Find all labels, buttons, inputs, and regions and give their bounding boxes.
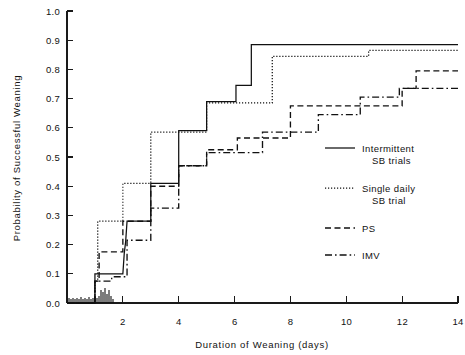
survival-curve-figure: Probability of Successful Weaning Durati…	[0, 0, 465, 355]
y-axis-title: Probability of Successful Weaning	[11, 75, 22, 242]
y-ticks: 1.0 0.9 0.8 0.7 0.6 0.5 0.4 0.3 0.2 0.1 …	[46, 6, 73, 309]
y-tick-label-0.9: 0.9	[46, 35, 60, 46]
y-tick-label-0.8: 0.8	[46, 64, 60, 75]
x-tick-label-12: 12	[397, 316, 408, 327]
censoring-marks-group	[69, 288, 113, 303]
curve-intermittent-sb-trials	[67, 45, 458, 303]
legend-label-imv: IMV	[362, 250, 380, 261]
x-tick-label-14: 14	[452, 316, 463, 327]
y-tick-label-0.1: 0.1	[46, 268, 60, 279]
curves-group	[67, 45, 458, 303]
x-tick-label-2: 2	[120, 316, 126, 327]
y-tick-label-0.5: 0.5	[46, 152, 60, 163]
y-tick-label-0.0: 0.0	[46, 298, 60, 309]
x-axis-title: Duration of Weaning (days)	[195, 339, 329, 350]
x-ticks: 2 4 6 8 10 12 14	[120, 296, 463, 327]
y-tick-label-0.3: 0.3	[46, 210, 60, 221]
chart-svg: Probability of Successful Weaning Durati…	[0, 0, 465, 355]
x-tick-label-10: 10	[341, 316, 352, 327]
legend-label-intermittent-sb-trials-line2: SB trials	[372, 155, 411, 166]
legend-label-single-daily-sb-trial-line1: Single daily	[362, 183, 415, 194]
y-tick-label-1.0: 1.0	[46, 6, 60, 17]
legend: Intermittent SB trials Single daily SB t…	[325, 143, 415, 261]
legend-label-intermittent-sb-trials-line1: Intermittent	[362, 143, 414, 154]
legend-label-ps: PS	[362, 223, 375, 234]
y-tick-label-0.6: 0.6	[46, 122, 60, 133]
y-tick-label-0.2: 0.2	[46, 239, 60, 250]
y-tick-label-0.7: 0.7	[46, 93, 60, 104]
x-tick-label-4: 4	[176, 316, 182, 327]
y-tick-label-0.4: 0.4	[46, 181, 60, 192]
x-tick-label-6: 6	[232, 316, 238, 327]
x-tick-label-8: 8	[288, 316, 294, 327]
y-axis-title-group: Probability of Successful Weaning	[11, 75, 22, 242]
legend-label-single-daily-sb-trial-line2: SB trial	[372, 195, 406, 206]
